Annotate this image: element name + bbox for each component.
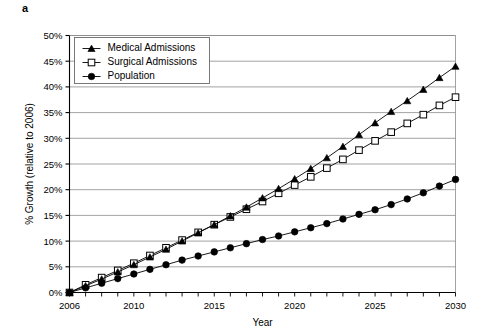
data-point-marker xyxy=(356,147,363,154)
data-point-marker xyxy=(355,131,362,137)
x-tick-label: 2006 xyxy=(59,300,80,311)
data-point-marker xyxy=(452,63,459,69)
legend-label: Surgical Admissions xyxy=(108,56,197,67)
legend: Medical AdmissionsSurgical AdmissionsPop… xyxy=(75,38,210,84)
y-tick-label: 35% xyxy=(43,107,63,118)
data-point-marker xyxy=(372,138,379,145)
x-axis-title: Year xyxy=(252,317,273,328)
series-line xyxy=(70,66,456,292)
legend-label: Medical Admissions xyxy=(108,42,196,53)
data-point-marker xyxy=(275,185,282,191)
data-point-marker xyxy=(420,111,427,118)
data-point-marker xyxy=(356,211,363,218)
data-point-marker xyxy=(163,261,170,268)
x-tick-label: 2025 xyxy=(365,300,386,311)
data-point-marker xyxy=(324,165,331,172)
data-point-marker xyxy=(211,249,218,256)
data-point-marker xyxy=(388,201,395,208)
data-point-marker xyxy=(275,233,282,240)
data-point-marker xyxy=(114,275,121,282)
x-tick-label: 2030 xyxy=(445,300,466,311)
data-point-marker xyxy=(147,266,154,273)
data-point-marker xyxy=(340,216,347,223)
data-point-marker xyxy=(98,280,105,287)
y-tick-label: 45% xyxy=(43,56,63,67)
y-tick-label: 15% xyxy=(43,210,63,221)
chart-canvas: 0%5%10%15%20%25%30%35%40%45%50%200620102… xyxy=(0,0,484,335)
data-point-marker xyxy=(452,176,459,183)
data-point-marker xyxy=(291,176,298,182)
data-point-marker xyxy=(404,196,411,203)
legend-marker xyxy=(88,59,95,66)
data-point-marker xyxy=(243,240,250,247)
data-point-marker xyxy=(339,143,346,149)
data-point-marker xyxy=(404,97,411,103)
data-point-marker xyxy=(259,236,266,243)
x-axis-minor-ticks xyxy=(70,293,456,297)
data-point-marker xyxy=(452,94,459,101)
data-point-marker xyxy=(436,183,443,190)
y-tick-label: 30% xyxy=(43,133,63,144)
data-point-marker xyxy=(371,119,378,125)
x-tick-label: 2015 xyxy=(204,300,225,311)
y-tick-label: 40% xyxy=(43,81,63,92)
data-point-marker xyxy=(307,224,314,231)
data-point-marker xyxy=(307,174,314,181)
y-axis-title: % Growth (relative to 2006) xyxy=(24,103,35,225)
data-point-marker xyxy=(323,154,330,160)
data-point-marker xyxy=(436,102,443,109)
y-tick-label: 0% xyxy=(49,287,63,298)
data-point-marker xyxy=(404,120,411,127)
data-point-marker xyxy=(82,285,89,292)
data-point-marker xyxy=(307,165,314,171)
legend-label: Population xyxy=(108,70,155,81)
data-point-marker xyxy=(179,257,186,264)
data-point-marker xyxy=(131,271,138,278)
data-point-marker xyxy=(291,229,298,236)
y-tick-label: 5% xyxy=(49,261,63,272)
data-point-marker xyxy=(291,182,298,189)
data-point-marker xyxy=(340,156,347,163)
data-point-marker xyxy=(372,206,379,213)
data-point-marker xyxy=(420,189,427,196)
data-point-marker xyxy=(66,289,73,296)
data-point-marker xyxy=(195,253,202,260)
y-tick-label: 25% xyxy=(43,159,63,170)
x-tick-label: 2020 xyxy=(284,300,305,311)
y-tick-label: 20% xyxy=(43,184,63,195)
data-point-marker xyxy=(324,220,331,227)
x-tick-label: 2010 xyxy=(123,300,144,311)
y-tick-label: 50% xyxy=(43,30,63,41)
legend-marker xyxy=(88,73,95,80)
series-medical-admissions xyxy=(66,63,459,296)
data-point-marker xyxy=(227,244,234,251)
figure-panel-a: a 0%5%10%15%20%25%30%35%40%45%50%2006201… xyxy=(0,0,484,335)
data-point-marker xyxy=(436,74,443,80)
data-point-marker xyxy=(388,129,395,136)
y-tick-label: 10% xyxy=(43,236,63,247)
x-axis-labels: 200620102015202020252030 xyxy=(59,300,466,311)
data-point-marker xyxy=(388,108,395,114)
y-axis-ticks: 0%5%10%15%20%25%30%35%40%45%50% xyxy=(43,30,69,298)
